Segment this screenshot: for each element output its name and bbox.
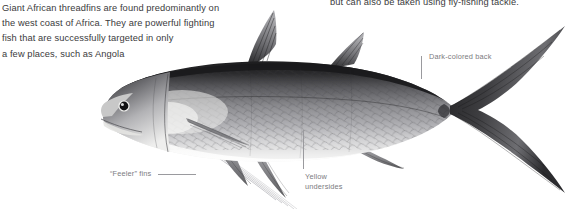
fish-eye bbox=[118, 100, 129, 111]
callout-feeler-fins: “Feeler” fins bbox=[110, 169, 151, 179]
top-right-paragraph: but can also be taken using fly-fishing … bbox=[330, 0, 574, 10]
intro-line-2: the west coast of Africa. They are power… bbox=[2, 16, 270, 31]
callout-yellow-undersides: Yellow undersides bbox=[305, 172, 365, 191]
intro-line-1: Giant African threadfins are found predo… bbox=[2, 1, 270, 16]
illustration-page: Giant African threadfins are found predo… bbox=[0, 0, 577, 209]
leader-line-feeler-fins bbox=[158, 174, 196, 175]
second-dorsal-fin bbox=[330, 32, 364, 67]
callout-yellow-undersides-line-2: undersides bbox=[305, 182, 365, 192]
leader-line-dark-colored-back bbox=[421, 56, 422, 79]
intro-line-3: fish that are successfully targeted in o… bbox=[2, 31, 270, 46]
intro-line-4: a few places, such as Angola bbox=[2, 47, 270, 62]
callout-dark-colored-back: Dark-colored back bbox=[429, 52, 492, 62]
intro-paragraph: Giant African threadfins are found predo… bbox=[2, 1, 270, 62]
leader-line-yellow-undersides bbox=[303, 130, 304, 169]
fish-head bbox=[101, 72, 170, 152]
callout-yellow-undersides-line-1: Yellow bbox=[305, 172, 365, 182]
